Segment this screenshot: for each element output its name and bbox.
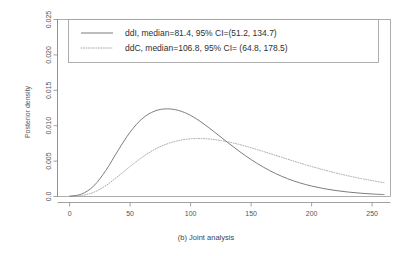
x-tick-label-2: 100 bbox=[185, 210, 197, 217]
x-axis-tick-labels: 0 50 100 150 200 250 bbox=[68, 210, 378, 217]
posterior-density-chart: 0.0 0.005 0.010 0.015 0.020 0.025 Poster… bbox=[0, 0, 412, 256]
caption-label: (b) Joint analysis bbox=[178, 233, 235, 242]
chart-legend: ddI, median=81.4, 95% CI=(51.2, 134.7) d… bbox=[69, 20, 379, 63]
legend-label-ddI: ddI, median=81.4, 95% CI=(51.2, 134.7) bbox=[125, 28, 277, 38]
x-tick-label-3: 150 bbox=[245, 210, 257, 217]
y-tick-label-0: 0.0 bbox=[45, 192, 52, 202]
x-tick-label-0: 0 bbox=[68, 210, 72, 217]
legend-label-ddC: ddC, median=106.8, 95% CI= (64.8, 178.5) bbox=[125, 43, 288, 53]
y-axis: 0.0 0.005 0.010 0.015 0.020 0.025 Poster… bbox=[24, 11, 58, 202]
y-tick-label-1: 0.005 bbox=[45, 152, 52, 170]
y-tick-label-2: 0.010 bbox=[45, 117, 52, 135]
density-curve-ddI bbox=[70, 109, 385, 196]
x-tick-label-1: 50 bbox=[126, 210, 134, 217]
figure-container: 0.0 0.005 0.010 0.015 0.020 0.025 Poster… bbox=[0, 0, 412, 256]
y-axis-ticks bbox=[54, 20, 58, 197]
density-curve-ddC bbox=[70, 139, 385, 197]
y-axis-tick-labels: 0.0 0.005 0.010 0.015 0.020 0.025 bbox=[45, 11, 52, 202]
figure-caption: (b) Joint analysis bbox=[178, 233, 235, 242]
y-tick-label-4: 0.020 bbox=[45, 46, 52, 64]
x-tick-label-5: 250 bbox=[366, 210, 378, 217]
x-axis-ticks bbox=[70, 203, 373, 207]
y-tick-label-5: 0.025 bbox=[45, 11, 52, 29]
y-axis-title: Posterior density bbox=[24, 85, 32, 138]
x-axis: 0 50 100 150 200 250 bbox=[58, 203, 391, 218]
data-curves bbox=[70, 109, 385, 197]
x-tick-label-4: 200 bbox=[306, 210, 318, 217]
y-tick-label-3: 0.015 bbox=[45, 81, 52, 99]
